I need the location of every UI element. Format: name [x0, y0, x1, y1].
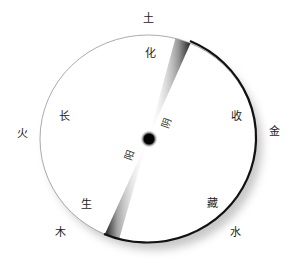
element-metal-label: 金 — [269, 126, 280, 137]
harvest-label: 收 — [231, 111, 242, 122]
store-label: 藏 — [207, 198, 218, 209]
yin-yang-five-elements-diagram: 土 火 金 木 水 化 长 收 生 藏 阴 阳 — [0, 0, 295, 263]
transform-label: 化 — [145, 48, 156, 59]
element-earth-label: 土 — [143, 13, 154, 24]
element-water-label: 水 — [230, 227, 241, 238]
birth-label: 生 — [81, 199, 92, 210]
circle-graphic — [0, 0, 295, 263]
center-dot — [140, 130, 158, 148]
element-fire-label: 火 — [17, 128, 28, 139]
grow-label: 长 — [59, 111, 70, 122]
element-wood-label: 木 — [55, 227, 66, 238]
